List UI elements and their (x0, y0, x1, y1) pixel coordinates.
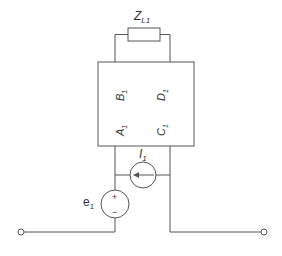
arrow-left-icon (133, 172, 139, 178)
circuit-diagram: ZL1 B1 D1 A1 C1 I1 + (0, 0, 282, 256)
right-terminal (261, 229, 267, 235)
voltage-source-label: e1 (83, 195, 95, 211)
voltage-source: + − e1 (83, 190, 129, 218)
left-terminal (18, 229, 24, 235)
param-c1: C1 (155, 124, 169, 136)
load-label: ZL1 (133, 9, 150, 25)
param-d1: D1 (155, 89, 169, 101)
param-a1: A1 (114, 125, 128, 137)
minus-sign: − (112, 207, 117, 217)
load-impedance: ZL1 (115, 9, 170, 62)
two-port-network: B1 D1 A1 C1 (98, 62, 194, 146)
current-source-label: I1 (139, 147, 147, 163)
param-b1: B1 (114, 90, 128, 101)
plus-sign: + (112, 192, 117, 202)
current-source: I1 (130, 147, 156, 188)
